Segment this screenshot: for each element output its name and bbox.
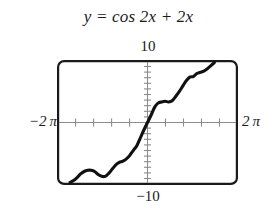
- graph-figure: y = cos 2x + 2x 10 −10 −2 π 2 π: [0, 0, 277, 217]
- plot-area: [57, 60, 238, 185]
- x-min-label: −2 π: [13, 113, 57, 130]
- x-max-label: 2 π: [242, 113, 277, 130]
- graph-canvas: [57, 60, 238, 185]
- y-min-label: −10: [118, 188, 178, 205]
- page-title: y = cos 2x + 2x: [0, 6, 277, 28]
- y-max-label: 10: [118, 38, 178, 55]
